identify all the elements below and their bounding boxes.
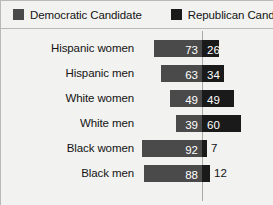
category-label: Hispanic women	[1, 40, 134, 57]
bar-republican: 60	[202, 115, 241, 132]
bar-republican: 34	[202, 65, 224, 82]
table-row: Black men 88 12	[1, 165, 273, 182]
legend-swatch-republican-icon	[171, 9, 182, 20]
category-label: White men	[1, 115, 134, 132]
legend-item-republican: Republican Candidate	[171, 9, 273, 21]
legend-label-democratic: Democratic Candidate	[30, 9, 142, 21]
bar-value-republican: 12	[214, 165, 227, 182]
table-row: Hispanic men 63 34	[1, 65, 273, 82]
bar-value-republican: 26	[202, 42, 220, 59]
bar-republican: 49	[202, 90, 234, 107]
bar-democratic: 92	[142, 140, 202, 157]
bar-value-republican: 60	[202, 117, 220, 134]
bar-value-democratic: 39	[185, 117, 202, 134]
category-label: Black men	[1, 165, 134, 182]
bar-value-democratic: 49	[185, 92, 202, 109]
legend-item-democratic: Democratic Candidate	[13, 9, 142, 21]
bar-value-republican: 34	[202, 67, 220, 84]
category-label: White women	[1, 90, 134, 107]
bar-democratic: 49	[170, 90, 202, 107]
bar-republican: 26	[202, 40, 219, 57]
chart-legend: Democratic Candidate Republican Candidat…	[1, 1, 273, 28]
bar-democratic: 63	[161, 65, 202, 82]
category-label: Hispanic men	[1, 65, 134, 82]
category-label: Black women	[1, 140, 134, 157]
chart-plot-area: Hispanic women 73 26 Hispanic men 63 34 …	[1, 29, 273, 205]
bar-republican	[202, 140, 207, 157]
bar-value-republican: 49	[202, 92, 220, 109]
bar-democratic: 39	[176, 115, 202, 132]
bar-value-democratic: 88	[185, 167, 202, 184]
bar-democratic: 88	[144, 165, 202, 182]
bar-value-democratic: 73	[185, 42, 202, 59]
bar-democratic: 73	[154, 40, 202, 57]
bar-value-democratic: 92	[185, 142, 202, 159]
table-row: Black women 92 7	[1, 140, 273, 157]
legend-swatch-democratic-icon	[13, 9, 24, 20]
bar-value-republican: 7	[211, 140, 217, 157]
table-row: Hispanic women 73 26	[1, 40, 273, 57]
bar-republican	[202, 165, 210, 182]
chart-container: Democratic Candidate Republican Candidat…	[0, 0, 273, 205]
table-row: White men 39 60	[1, 115, 273, 132]
bar-value-democratic: 63	[185, 67, 202, 84]
legend-label-republican: Republican Candidate	[188, 9, 273, 21]
table-row: White women 49 49	[1, 90, 273, 107]
